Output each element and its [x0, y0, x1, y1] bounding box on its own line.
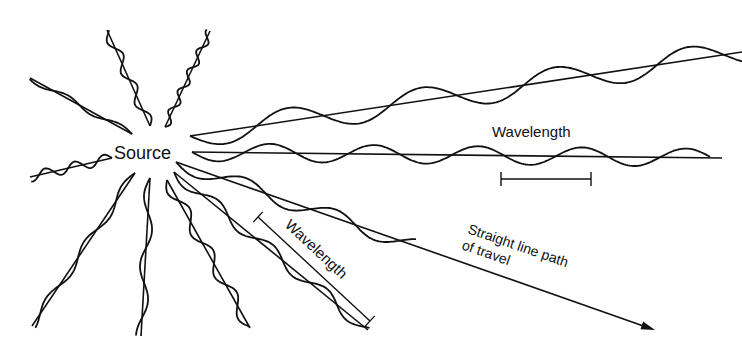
path-line [30, 158, 112, 177]
ray-down [136, 178, 152, 336]
arrowhead-icon [640, 322, 655, 330]
wavelength-bar-diagonal [253, 212, 375, 326]
wave-rays [30, 30, 742, 337]
ray-travel-arrow [176, 162, 655, 330]
source-label: Source [114, 143, 171, 163]
path-line [165, 31, 210, 127]
diagram-svg: Source Wavelength Wavelength Straight li… [0, 0, 742, 349]
wavelength-label-horizontal: Wavelength [492, 123, 571, 140]
path-line [176, 162, 646, 327]
ray-left [30, 155, 112, 182]
wave-curve [192, 144, 710, 166]
ray-up-right [165, 30, 210, 128]
ray-up [107, 30, 152, 126]
wave-curve [190, 47, 742, 145]
wave-curve [136, 178, 152, 336]
ray-upper-left [30, 78, 132, 134]
ray-down-right [166, 180, 250, 328]
ray-down-left [32, 173, 135, 328]
wavelength-bar-horizontal [501, 172, 591, 186]
ray-horizontal [192, 144, 722, 166]
path-line [32, 173, 135, 326]
wave-diagram: Source Wavelength Wavelength Straight li… [0, 0, 742, 349]
path-line [190, 52, 742, 136]
ray-upper-right [190, 47, 742, 145]
